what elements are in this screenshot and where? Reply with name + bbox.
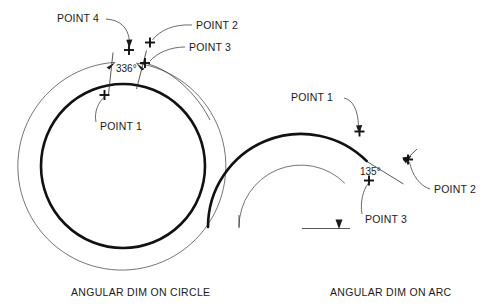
circle-point1-label: POINT 1 xyxy=(100,120,142,132)
arc-point3-label: POINT 3 xyxy=(365,213,407,225)
arc-figure-caption: ANGULAR DIM ON ARC xyxy=(330,286,452,298)
arc-point2-label: POINT 2 xyxy=(434,183,476,195)
circle-point4-label: POINT 4 xyxy=(57,12,99,24)
technical-drawing-canvas: POINT 4 POINT 2 POINT 3 POINT 1 336° ANG… xyxy=(0,0,493,308)
circle-figure-caption: ANGULAR DIM ON CIRCLE xyxy=(71,286,210,298)
circle-point3-label: POINT 3 xyxy=(189,41,231,53)
arc-point1-label: POINT 1 xyxy=(291,91,333,103)
arc-dimension-value: 135° xyxy=(360,166,381,177)
circle-dimension-value: 336° xyxy=(116,63,137,74)
canvas-background xyxy=(0,0,493,308)
circle-point2-label: POINT 2 xyxy=(196,19,238,31)
angular-dimension-illustration: POINT 4 POINT 2 POINT 3 POINT 1 336° ANG… xyxy=(0,0,493,308)
